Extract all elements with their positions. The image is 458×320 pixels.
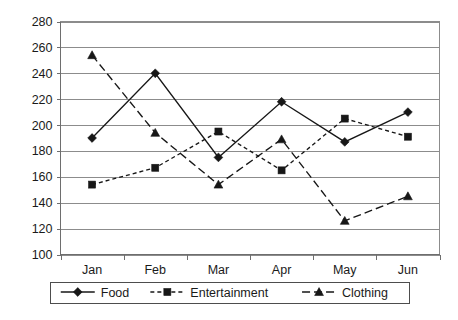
axis-ticks-group: [57, 23, 441, 260]
series-clothing: [88, 51, 413, 225]
x-axis-tick-label: Jun: [398, 263, 418, 277]
data-point-marker-triangle: [277, 135, 286, 143]
legend-marker-square: [164, 289, 171, 296]
series-line-food: [92, 73, 408, 157]
plot-area-border: [61, 22, 440, 255]
data-point-marker-square: [404, 133, 411, 140]
data-point-marker-square: [341, 115, 348, 122]
data-point-marker-triangle: [151, 128, 160, 136]
series-food: [88, 69, 413, 162]
y-axis-tick-label: 180: [32, 144, 53, 158]
data-point-marker-diamond: [404, 108, 413, 117]
y-axis-tick-label: 260: [32, 41, 53, 55]
y-axis-tick-label: 280: [32, 15, 53, 29]
y-axis-tick-label: 120: [32, 222, 53, 236]
y-axis-tick-label: 140: [32, 196, 53, 210]
y-axis-tick-label: 200: [32, 119, 53, 133]
y-axis-tick-label: 100: [32, 248, 53, 262]
series-line-clothing: [92, 55, 408, 221]
chart-canvas: 100120140160180200220240260280 JanFebMar…: [0, 0, 458, 320]
data-point-marker-triangle: [340, 216, 349, 224]
data-point-marker-triangle: [214, 180, 223, 188]
x-axis-tick-label: Mar: [208, 263, 230, 277]
x-axis-tick-label: Jan: [82, 263, 102, 277]
x-axis-tick-label: Feb: [144, 263, 166, 277]
x-axis-tick-label: May: [333, 263, 357, 277]
y-axis-tick-label: 220: [32, 93, 53, 107]
y-axis-labels-group: 100120140160180200220240260280: [32, 15, 53, 262]
legend-label: Entertainment: [190, 286, 268, 300]
data-point-marker-square: [215, 128, 222, 135]
legend-label: Food: [101, 286, 130, 300]
data-point-marker-square: [278, 167, 285, 174]
x-axis-tick-label: Apr: [272, 263, 291, 277]
line-chart: 100120140160180200220240260280 JanFebMar…: [0, 0, 458, 320]
data-point-marker-square: [152, 164, 159, 171]
chart-legend: FoodEntertainmentClothing: [51, 283, 410, 304]
data-point-marker-triangle: [404, 192, 413, 200]
data-point-marker-triangle: [88, 51, 97, 59]
series-layer: [88, 51, 413, 225]
x-axis-labels-group: JanFebMarAprMayJun: [82, 263, 418, 277]
data-point-marker-square: [89, 181, 96, 188]
legend-label: Clothing: [342, 286, 388, 300]
y-axis-tick-label: 240: [32, 67, 53, 81]
gridlines-group: [61, 23, 440, 256]
data-point-marker-diamond: [340, 137, 349, 146]
y-axis-tick-label: 160: [32, 170, 53, 184]
